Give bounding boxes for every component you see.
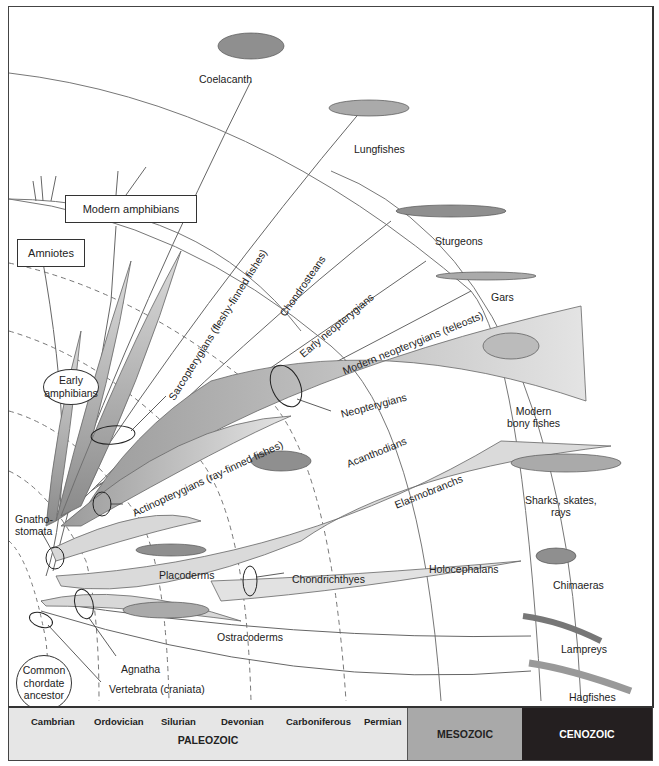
period-cambrian: Cambrian: [31, 716, 75, 727]
label-vertebrata: Vertebrata (craniata): [109, 683, 205, 695]
shark-icon: [511, 454, 621, 472]
label-agnatha: Agnatha: [121, 663, 160, 675]
perch-icon: [483, 333, 539, 359]
placoderm-icon: [136, 544, 206, 556]
common-ancestor-l2: chordate: [23, 677, 66, 690]
tip-lampreys: Lampreys: [561, 643, 607, 655]
box-modern-amphibians: Modern amphibians: [65, 195, 197, 223]
paleozoic-label: PALEOZOIC: [9, 734, 407, 746]
tip-gars: Gars: [491, 291, 514, 303]
chimaera-icon: [536, 548, 576, 564]
era-paleozoic: Cambrian Ordovician Silurian Devonian Ca…: [9, 708, 407, 760]
period-ordovician: Ordovician: [94, 716, 144, 727]
early-amphibians-l2: amphibians: [44, 387, 98, 400]
period-carboniferous: Carboniferous: [286, 716, 351, 727]
phylogeny-tree: [9, 7, 652, 707]
geologic-timeline: Cambrian Ordovician Silurian Devonian Ca…: [8, 706, 653, 761]
label-holocephalans: Holocephalans: [429, 563, 498, 575]
tip-chimaeras: Chimaeras: [553, 579, 604, 591]
tip-sharks-line1: Sharks, skates,: [525, 494, 597, 506]
oval-early-amphibians: Earlyamphibians: [43, 369, 99, 405]
tip-modern-bony-line1: Modern: [507, 405, 560, 417]
tip-sharks-line2: rays: [525, 506, 597, 518]
coelacanth-icon: [218, 33, 284, 59]
era-cenozoic: CENOZOIC: [522, 708, 652, 760]
ostracoderm-icon: [123, 602, 209, 618]
tip-coelacanth: Coelacanth: [199, 73, 252, 85]
tip-lungfishes: Lungfishes: [354, 143, 405, 155]
gar-icon: [436, 272, 536, 280]
label-chondrichthyes: Chondrichthyes: [292, 573, 365, 585]
gnathostomata-l1: Gnatho-: [15, 513, 53, 525]
early-amphibians-l1: Early: [44, 374, 98, 387]
period-permian: Permian: [364, 716, 402, 727]
label-ostracoderms: Ostracoderms: [217, 631, 283, 643]
period-silurian: Silurian: [161, 716, 196, 727]
oval-common-ancestor: Commonchordateancestor: [16, 655, 72, 711]
clade-wedges: [41, 251, 611, 621]
diagram-frame: Coelacanth Lungfishes Sturgeons Gars Mod…: [8, 6, 654, 708]
sturgeon-icon: [396, 205, 506, 217]
lamprey-icon: [523, 616, 601, 641]
lungfish-icon: [329, 100, 409, 116]
box-amniotes: Amniotes: [17, 239, 85, 267]
tip-hagfishes: Hagfishes: [569, 691, 616, 703]
label-placoderms: Placoderms: [159, 569, 214, 581]
tip-sturgeons: Sturgeons: [435, 235, 483, 247]
gnathostomata-l2: stomata: [15, 525, 53, 537]
tip-modern-bony-line2: bony fishes: [507, 417, 560, 429]
period-devonian: Devonian: [221, 716, 264, 727]
era-mesozoic: MESOZOIC: [407, 708, 522, 760]
tip-sharks: Sharks, skates, rays: [525, 494, 597, 518]
tip-modern-bony-fishes: Modern bony fishes: [507, 405, 560, 429]
common-ancestor-l1: Common: [23, 664, 66, 677]
common-ancestor-l3: ancestor: [23, 689, 66, 702]
label-gnathostomata: Gnatho- stomata: [15, 513, 53, 537]
